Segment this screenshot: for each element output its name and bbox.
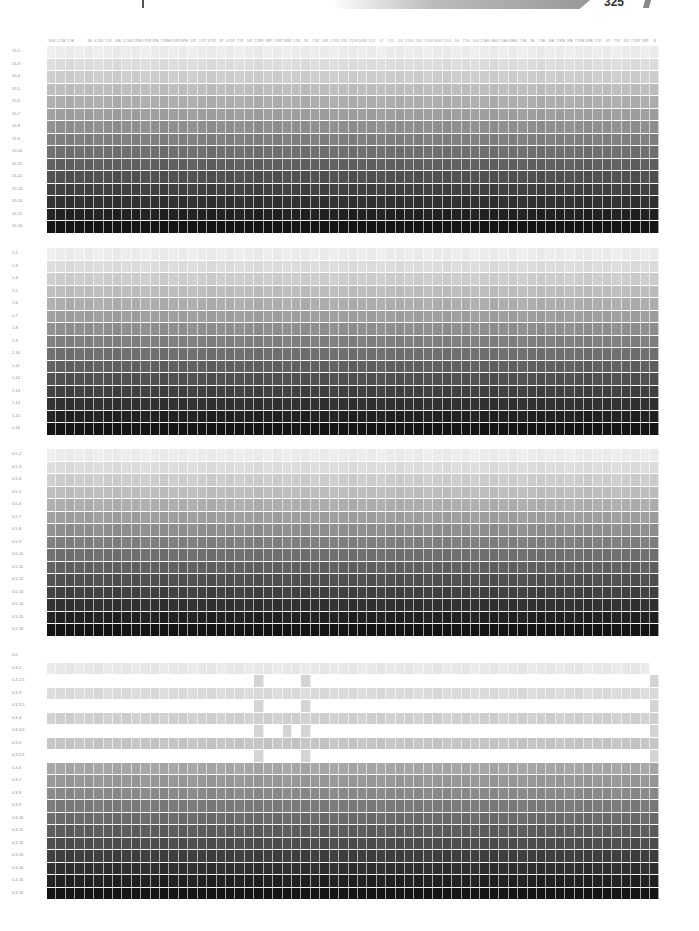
color-swatch — [104, 713, 113, 725]
color-swatch — [575, 663, 584, 675]
color-swatch — [452, 612, 461, 624]
color-swatch — [471, 46, 480, 58]
color-swatch — [575, 159, 584, 171]
color-swatch — [188, 599, 197, 611]
color-swatch — [254, 209, 263, 221]
color-swatch — [414, 423, 423, 435]
color-swatch — [320, 273, 329, 285]
color-swatch — [141, 888, 150, 900]
color-swatch — [377, 373, 386, 385]
color-swatch — [556, 196, 565, 208]
color-swatch — [537, 537, 546, 549]
color-swatch — [104, 663, 113, 675]
color-swatch — [405, 46, 414, 58]
color-swatch — [424, 512, 433, 524]
color-swatch — [650, 134, 659, 146]
column-label: 2.5B — [518, 39, 527, 43]
color-swatch — [367, 875, 376, 887]
color-swatch — [471, 159, 480, 171]
color-swatch — [424, 398, 433, 410]
row-label: 0.5-5 — [12, 489, 44, 494]
color-swatch — [433, 474, 442, 486]
color-swatch — [113, 84, 122, 96]
color-swatch — [132, 298, 141, 310]
color-swatch — [471, 474, 480, 486]
color-swatch — [301, 474, 310, 486]
color-swatch — [518, 863, 527, 875]
color-swatch — [367, 750, 376, 762]
color-swatch — [207, 562, 216, 574]
color-swatch — [377, 738, 386, 750]
color-swatch — [556, 713, 565, 725]
color-swatch — [462, 84, 471, 96]
color-swatch — [565, 134, 574, 146]
color-swatch — [518, 96, 527, 108]
color-swatch — [499, 423, 508, 435]
color-swatch — [339, 499, 348, 511]
color-swatch — [301, 196, 310, 208]
color-swatch — [113, 184, 122, 196]
color-swatch — [320, 725, 329, 737]
color-swatch — [113, 524, 122, 536]
color-swatch — [188, 336, 197, 348]
color-swatch — [85, 850, 94, 862]
color-swatch — [556, 209, 565, 221]
color-swatch — [217, 888, 226, 900]
color-swatch — [235, 738, 244, 750]
row-label: 0.3-7 — [12, 777, 44, 782]
color-swatch — [207, 624, 216, 636]
color-swatch — [188, 813, 197, 825]
color-swatch — [254, 650, 263, 662]
color-swatch — [622, 838, 631, 850]
color-swatch — [537, 423, 546, 435]
color-swatch — [56, 361, 65, 373]
color-swatch — [650, 738, 659, 750]
color-swatch — [612, 675, 621, 687]
color-swatch — [414, 587, 423, 599]
color-swatch — [330, 875, 339, 887]
color-swatch — [188, 713, 197, 725]
color-swatch — [490, 863, 499, 875]
color-swatch — [104, 574, 113, 586]
color-swatch — [141, 423, 150, 435]
color-swatch — [66, 336, 75, 348]
color-swatch — [56, 423, 65, 435]
color-swatch — [85, 96, 94, 108]
color-swatch — [169, 411, 178, 423]
row-label: 1-5 — [12, 288, 44, 293]
color-swatch — [612, 725, 621, 737]
color-swatch — [104, 487, 113, 499]
color-swatch — [169, 221, 178, 233]
color-swatch — [245, 775, 254, 787]
color-swatch — [622, 134, 631, 146]
swatch-row: 1-15 — [47, 411, 659, 424]
color-swatch — [490, 738, 499, 750]
color-swatch — [85, 336, 94, 348]
color-swatch — [556, 121, 565, 133]
row-label: 0.3-12 — [12, 840, 44, 845]
color-swatch — [509, 474, 518, 486]
color-swatch — [75, 499, 84, 511]
color-swatch — [47, 562, 56, 574]
color-swatch — [631, 750, 640, 762]
color-swatch — [641, 474, 650, 486]
color-swatch — [650, 587, 659, 599]
color-swatch — [443, 121, 452, 133]
color-swatch — [169, 813, 178, 825]
row-label: 15-10 — [12, 148, 44, 153]
color-swatch — [113, 398, 122, 410]
color-swatch — [226, 348, 235, 360]
color-swatch — [367, 171, 376, 183]
color-swatch — [301, 650, 310, 662]
color-swatch — [537, 298, 546, 310]
color-swatch — [47, 261, 56, 273]
color-swatch — [518, 423, 527, 435]
color-swatch — [367, 587, 376, 599]
color-swatch — [556, 725, 565, 737]
color-swatch — [349, 888, 358, 900]
color-swatch — [490, 549, 499, 561]
color-swatch — [405, 386, 414, 398]
color-swatch — [235, 775, 244, 787]
color-swatch — [245, 650, 254, 662]
column-label: 10P — [245, 39, 254, 43]
